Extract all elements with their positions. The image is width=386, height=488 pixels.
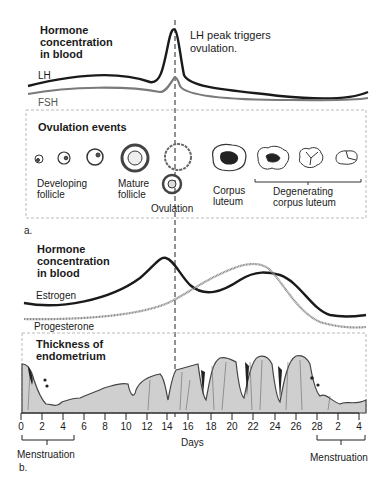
x-axis-label: Days xyxy=(181,437,204,448)
ovulation-label: Ovulation xyxy=(151,203,193,214)
menstruation-bracket-left xyxy=(22,435,74,445)
heading-line: in blood xyxy=(40,48,113,60)
menstruation-label-left: Menstruation xyxy=(17,449,75,460)
annotation-line: LH peak triggers xyxy=(190,29,271,42)
lh-label: LH xyxy=(38,70,51,81)
label-line: corpus luteum xyxy=(273,197,336,208)
tick-label: 6 xyxy=(81,421,87,432)
panel-a-label: a. xyxy=(24,225,32,236)
tick-label: 2 xyxy=(39,421,45,432)
label-line: follicle xyxy=(37,189,87,200)
mature-follicle-label: Mature follicle xyxy=(118,178,149,200)
tick-label: 4 xyxy=(60,421,66,432)
tick-label: 18 xyxy=(205,421,216,432)
tick-label: 22 xyxy=(247,421,258,432)
tick-label: 14 xyxy=(161,421,172,432)
corpus-luteum-icon xyxy=(213,144,246,170)
x-axis-ticks xyxy=(21,413,359,420)
tick-label: 26 xyxy=(290,421,301,432)
heading-line: concentration xyxy=(37,255,110,267)
tick-label: 8 xyxy=(102,421,108,432)
heading-line: concentration xyxy=(40,36,113,48)
menstruation-bracket-right xyxy=(317,435,365,445)
ovulation-events-title: Ovulation events xyxy=(38,121,127,133)
heading-line: Thickness of xyxy=(36,338,106,350)
panel-b-label: b. xyxy=(19,462,27,473)
tick-label: 16 xyxy=(182,421,193,432)
panel-b-hormone-heading: Hormone concentration in blood xyxy=(37,243,110,279)
label-line: Corpus xyxy=(213,185,245,196)
fsh-label: FSH xyxy=(38,97,58,108)
tick-label: 2 xyxy=(335,421,341,432)
endometrium-heading: Thickness of endometrium xyxy=(36,338,106,362)
estrogen-label: Estrogen xyxy=(36,290,76,301)
tick-label: 28 xyxy=(311,421,322,432)
label-line: Degenerating xyxy=(273,186,336,197)
heading-line: in blood xyxy=(37,267,110,279)
tick-label: 20 xyxy=(226,421,237,432)
tick-label: 0 xyxy=(18,421,24,432)
tick-label: 4 xyxy=(356,421,362,432)
developing-follicle-label: Developing follicle xyxy=(37,178,87,200)
label-line: follicle xyxy=(118,189,149,200)
annotation-line: ovulation. xyxy=(190,42,271,55)
degenerating-corpus-luteum-icons xyxy=(258,146,358,169)
tick-label: 10 xyxy=(120,421,131,432)
tick-label: 12 xyxy=(141,421,152,432)
menstruation-label-right: Menstruation xyxy=(310,452,368,463)
label-line: Developing xyxy=(37,178,87,189)
tick-label: 24 xyxy=(269,421,280,432)
lh-peak-annotation: LH peak triggers ovulation. xyxy=(190,29,271,55)
heading-line: Hormone xyxy=(37,243,110,255)
fsh-curve xyxy=(28,77,368,100)
panel-a-hormone-heading: Hormone concentration in blood xyxy=(40,24,113,60)
degenerating-bracket xyxy=(255,179,361,185)
label-line: luteum xyxy=(213,196,245,207)
progesterone-label: Progesterone xyxy=(34,321,94,332)
label-line: Mature xyxy=(118,178,149,189)
corpus-luteum-label: Corpus luteum xyxy=(213,185,245,207)
degenerating-corpus-luteum-label: Degenerating corpus luteum xyxy=(273,186,336,208)
endometrium-tissue xyxy=(22,356,366,413)
heading-line: endometrium xyxy=(36,350,106,362)
heading-line: Hormone xyxy=(40,24,113,36)
